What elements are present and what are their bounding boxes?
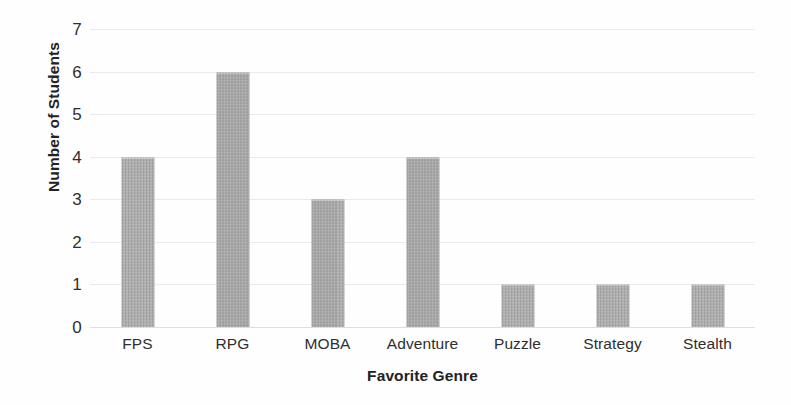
bar xyxy=(311,199,344,327)
bar xyxy=(596,284,629,327)
bar-slot xyxy=(185,29,280,327)
y-axis-tick-label: 6 xyxy=(48,63,82,80)
y-axis-tick-label: 5 xyxy=(48,106,82,123)
bar-slot xyxy=(90,29,185,327)
x-axis-tick-label: MOBA xyxy=(280,334,375,355)
x-axis-tick-label: RPG xyxy=(185,334,280,355)
bar-slot xyxy=(470,29,565,327)
y-axis-tick-label: 7 xyxy=(48,21,82,38)
x-axis-baseline xyxy=(90,327,755,328)
x-axis-tick-label: Puzzle xyxy=(470,334,565,355)
y-axis-tick-label: 0 xyxy=(48,319,82,336)
bar xyxy=(406,157,439,327)
x-axis-tick-label: Adventure xyxy=(375,334,470,355)
x-axis-tick-labels: FPSRPGMOBAAdventurePuzzleStrategyStealth xyxy=(90,334,755,358)
bar-slot xyxy=(660,29,755,327)
plot-area xyxy=(90,29,755,327)
x-axis-title: Favorite Genre xyxy=(90,367,755,385)
y-axis-tick-label: 3 xyxy=(48,191,82,208)
x-axis-tick-label: Stealth xyxy=(660,334,755,355)
x-axis-tick-label: Strategy xyxy=(565,334,660,355)
y-axis-tick-label: 4 xyxy=(48,148,82,165)
bar xyxy=(216,72,249,327)
y-axis-tick-label: 1 xyxy=(48,276,82,293)
bar xyxy=(691,284,724,327)
bar-slot xyxy=(375,29,470,327)
y-axis-tick-labels: 76543210 xyxy=(38,29,82,327)
bar xyxy=(501,284,534,327)
y-axis-tick-label: 2 xyxy=(48,233,82,250)
bar xyxy=(121,157,154,327)
bar-chart-figure: Number of Students 76543210 FPSRPGMOBAAd… xyxy=(0,0,791,405)
bar-slot xyxy=(280,29,375,327)
x-axis-tick-label: FPS xyxy=(90,334,185,355)
bar-slot xyxy=(565,29,660,327)
